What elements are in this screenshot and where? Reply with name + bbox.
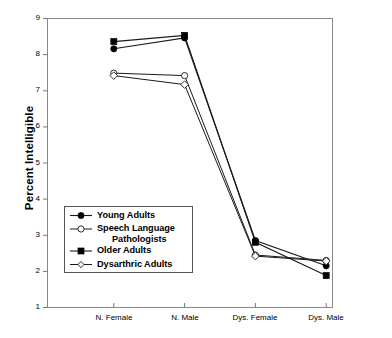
x-tick-label-dys-male: Dys. Male: [286, 313, 366, 322]
x-tick-label-dys-female: Dys. Female: [215, 313, 295, 322]
x-tick-label-n-male: N. Male: [145, 313, 225, 322]
legend-label-dysarthric-adults: Dysarthric Adults: [97, 259, 172, 269]
y-tick-label-6: 6: [24, 121, 40, 130]
y-tick-label-2: 2: [24, 266, 40, 275]
y-tick-label-4: 4: [24, 194, 40, 203]
legend-label-speech-language-pathologists: Speech Language: [97, 223, 175, 233]
line-chart-plot: [0, 0, 392, 338]
y-tick-label-5: 5: [24, 158, 40, 167]
y-axis-ticks: [43, 19, 48, 308]
y-tick-label-9: 9: [24, 13, 40, 22]
legend-label-older-adults: Older Adults: [97, 245, 151, 255]
chart-figure: Percent Intelligible 9 8 7 6 5 4 3 2 1 N…: [0, 0, 392, 338]
x-tick-label-n-female: N. Female: [74, 313, 154, 322]
y-tick-label-8: 8: [24, 49, 40, 58]
y-tick-label-1: 1: [24, 302, 40, 311]
y-tick-label-3: 3: [24, 230, 40, 239]
legend-label-young-adults: Young Adults: [97, 210, 155, 220]
y-tick-label-7: 7: [24, 85, 40, 94]
legend-label-speech-language-pathologists-line2: Pathologists: [112, 234, 167, 244]
